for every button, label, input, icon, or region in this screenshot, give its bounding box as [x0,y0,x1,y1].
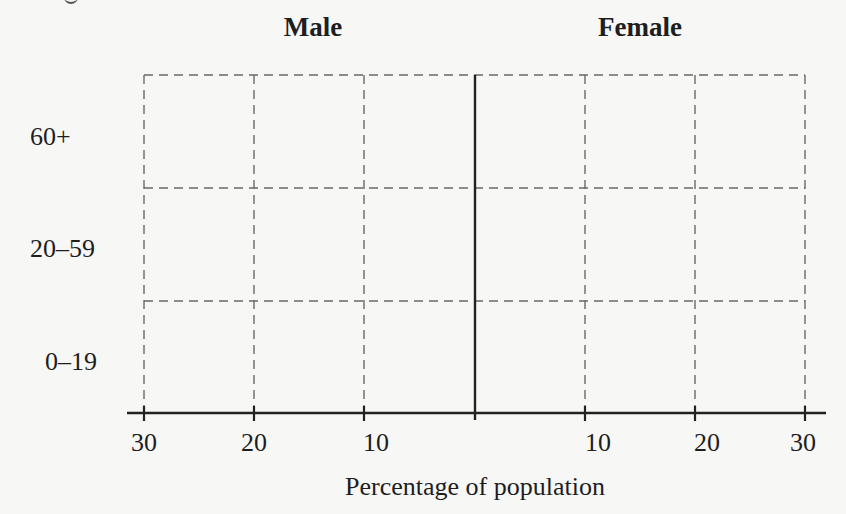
x-tick-label-male-10: 10 [363,430,389,456]
row-label-0-19: 0–19 [45,349,97,375]
x-tick-label-female-20: 20 [694,430,720,456]
row-label-20-59: 20–59 [30,236,95,262]
x-tick-label-female-10: 10 [585,430,611,456]
x-tick-label-female-30: 30 [790,430,816,456]
row-label-60-plus: 60+ [30,124,71,150]
figure: Male Female 60+ 20–59 0–19 30 20 [0,0,846,514]
x-axis-title: Percentage of population [345,474,605,500]
x-tick-label-male-20: 20 [241,430,267,456]
x-tick-label-male-30: 30 [131,430,157,456]
